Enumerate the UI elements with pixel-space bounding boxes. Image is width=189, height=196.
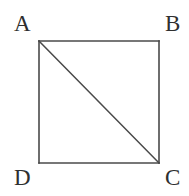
geometry-figure: A B C D: [0, 0, 189, 196]
vertex-label-a: A: [14, 12, 31, 35]
vertex-label-b: B: [165, 12, 180, 35]
vertex-label-c: C: [165, 166, 180, 189]
vertex-label-d: D: [14, 166, 31, 189]
